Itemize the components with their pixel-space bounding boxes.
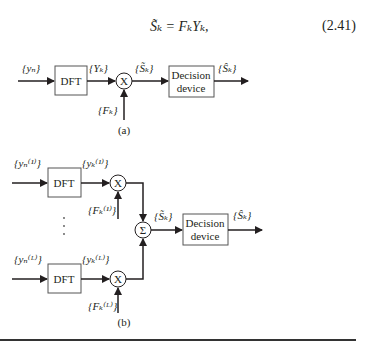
dft-output-label: {Yₖ} [89,62,109,74]
branchL-input-label: {yₙ⁽ᴸ⁾} [14,253,43,265]
branchL-weight-label: {Fₖ⁽ᴸ⁾} [88,300,118,312]
sum-symbol: Σ [140,224,146,236]
output-label: {Ŝₖ} [218,62,237,74]
branch1-dft-output-label: {yₖ⁽¹⁾} [82,157,109,169]
branchL-dft-output-label: {yₖ⁽ᴸ⁾} [82,253,110,265]
branchL-multiplier-symbol: X [114,273,122,285]
ellipsis-dot [63,225,65,227]
combined-label: {S̃ₖ} [135,62,154,74]
input-label: {yₙ} [22,62,41,74]
branch1-weight-label: {Fₖ⁽¹⁾} [88,204,117,216]
branchL-to-sum-arrow [126,239,143,279]
decision-label-line1: Decision [185,217,225,229]
ellipsis-dot [63,217,65,219]
caption-a: (a) [118,124,131,137]
caption-b: (b) [118,316,131,329]
multiplier-symbol: X [120,75,128,87]
ellipsis-dot [63,233,65,235]
bottom-rule [0,339,356,341]
weight-label: {Fₖ} [98,104,118,116]
branchL-dft-label: DFT [54,273,75,285]
block-diagrams: {yₙ} DFT {Yₖ} X {Fₖ} {S̃ₖ} Decision devi… [0,0,369,347]
branch1-input-label: {yₙ⁽¹⁾} [14,157,41,169]
decision-label-line2: device [177,82,206,94]
output-label: {Ŝₖ} [233,209,252,221]
decision-label-line2: device [191,230,220,242]
dft-label: DFT [61,75,82,87]
combined-label: {S̃ₖ} [154,210,173,222]
diagram-a: {yₙ} DFT {Yₖ} X {Fₖ} {S̃ₖ} Decision devi… [18,62,248,137]
diagram-b: {yₙ⁽¹⁾} DFT {yₖ⁽¹⁾} X {Fₖ⁽¹⁾} Σ {S̃ₖ} De… [12,157,262,329]
decision-label-line1: Decision [171,69,211,81]
branch1-to-sum-arrow [126,183,143,221]
branch1-multiplier-symbol: X [114,177,122,189]
branch1-dft-label: DFT [54,177,75,189]
